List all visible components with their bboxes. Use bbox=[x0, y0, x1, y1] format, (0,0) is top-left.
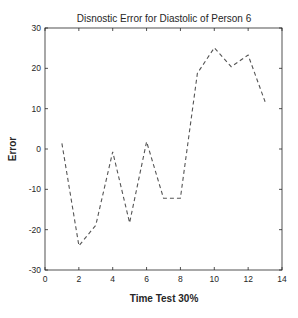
x-tick-label: 4 bbox=[110, 274, 115, 284]
y-tick-label: 20 bbox=[32, 63, 42, 73]
x-tick-label: 14 bbox=[277, 274, 287, 284]
plot-area bbox=[45, 28, 282, 270]
x-tick-label: 6 bbox=[144, 274, 149, 284]
x-tick-label: 8 bbox=[178, 274, 183, 284]
y-tick-label: 30 bbox=[32, 23, 42, 33]
y-tick-label: -10 bbox=[29, 184, 42, 194]
chart-title: Disnostic Error for Diastolic of Person … bbox=[77, 13, 252, 24]
y-tick-label: -20 bbox=[29, 225, 42, 235]
line-chart: Disnostic Error for Diastolic of Person … bbox=[0, 0, 298, 318]
y-tick-label: -30 bbox=[29, 265, 42, 275]
x-tick-label: 12 bbox=[243, 274, 253, 284]
y-axis-label: Error bbox=[7, 137, 18, 162]
x-tick-label: 0 bbox=[43, 274, 48, 284]
y-tick-label: 10 bbox=[32, 104, 42, 114]
x-tick-label: 10 bbox=[210, 274, 220, 284]
x-tick-label: 2 bbox=[76, 274, 81, 284]
x-axis-label: Time Test 30% bbox=[130, 293, 199, 304]
y-tick-label: 0 bbox=[36, 144, 41, 154]
